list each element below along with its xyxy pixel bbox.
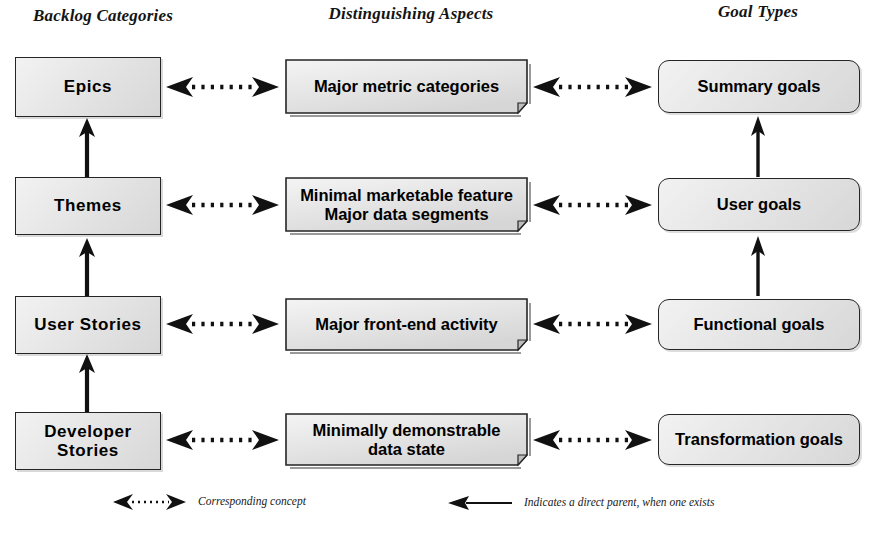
goal-type-user-goals[interactable]: User goals xyxy=(658,178,860,231)
goal-type-user-goals-label: User goals xyxy=(711,195,807,213)
backlog-category-developer-stories-label: Developer xyxy=(44,422,132,441)
correspondence-arrow-right-row1 xyxy=(533,77,652,97)
column-header-goal-types: Goal Types xyxy=(660,2,856,22)
legend-label-direct-parent: Indicates a direct parent, when one exis… xyxy=(524,496,714,508)
column-header-distinguishing-aspects: Distinguishing Aspects xyxy=(296,4,526,24)
distinguishing-aspect-minimal-marketable-feature[interactable]: Minimal marketable feature Major data se… xyxy=(286,178,527,231)
aspect-line: Major front-end activity xyxy=(315,315,497,333)
correspondence-arrow-left-row4 xyxy=(166,430,279,450)
correspondence-arrow-left-row2 xyxy=(166,195,279,215)
goal-type-transformation-goals-label: Transformation goals xyxy=(669,430,849,448)
correspondence-arrow-right-row4 xyxy=(533,430,652,450)
backlog-category-developer-stories-label: Stories xyxy=(57,441,119,460)
aspect-line: Major data segments xyxy=(324,205,488,223)
legend-dotted-arrow-icon xyxy=(113,494,186,510)
column-header-backlog-categories: Backlog Categories xyxy=(0,6,206,26)
diagram-canvas: Backlog Categories Distinguishing Aspect… xyxy=(0,0,874,540)
goal-type-summary-goals[interactable]: Summary goals xyxy=(658,60,860,113)
distinguishing-aspect-minimally-demonstrable-data-state[interactable]: Minimally demonstrable data state xyxy=(286,414,527,465)
goal-type-transformation-goals[interactable]: Transformation goals xyxy=(658,414,860,465)
distinguishing-aspect-major-front-end-activity[interactable]: Major front-end activity xyxy=(286,299,527,350)
backlog-category-epics[interactable]: Epics xyxy=(15,57,161,117)
legend-solid-arrow-icon xyxy=(448,496,512,510)
goal-type-functional-goals-label: Functional goals xyxy=(687,315,830,333)
aspect-line: Major metric categories xyxy=(314,77,499,95)
backlog-category-user-stories[interactable]: User Stories xyxy=(15,296,161,354)
correspondence-arrow-right-row3 xyxy=(533,314,652,334)
parent-arrow-right-functionalgoals-to-usergoals xyxy=(751,236,765,296)
parent-arrow-left-devstories-to-userstories xyxy=(79,354,95,412)
correspondence-arrow-left-row1 xyxy=(166,77,279,97)
correspondence-arrow-left-row3 xyxy=(166,314,279,334)
parent-arrow-left-themes-to-epics xyxy=(79,118,95,177)
parent-arrow-right-usergoals-to-summarygoals xyxy=(751,116,765,177)
backlog-category-developer-stories[interactable]: Developer Stories xyxy=(15,412,161,470)
parent-arrow-left-userstories-to-themes xyxy=(79,238,95,296)
aspect-line: data state xyxy=(368,440,445,458)
backlog-category-themes-label: Themes xyxy=(48,196,128,215)
distinguishing-aspect-major-metric-categories[interactable]: Major metric categories xyxy=(286,60,527,113)
backlog-category-themes[interactable]: Themes xyxy=(15,177,161,235)
goal-type-functional-goals[interactable]: Functional goals xyxy=(658,299,860,350)
goal-type-summary-goals-label: Summary goals xyxy=(692,77,827,95)
correspondence-arrow-right-row2 xyxy=(533,195,652,215)
backlog-category-user-stories-label: User Stories xyxy=(28,315,147,334)
aspect-line: Minimally demonstrable xyxy=(313,421,501,439)
aspect-line: Minimal marketable feature xyxy=(300,186,513,204)
legend-label-corresponding-concept: Corresponding concept xyxy=(198,495,306,507)
backlog-category-epics-label: Epics xyxy=(58,77,118,96)
